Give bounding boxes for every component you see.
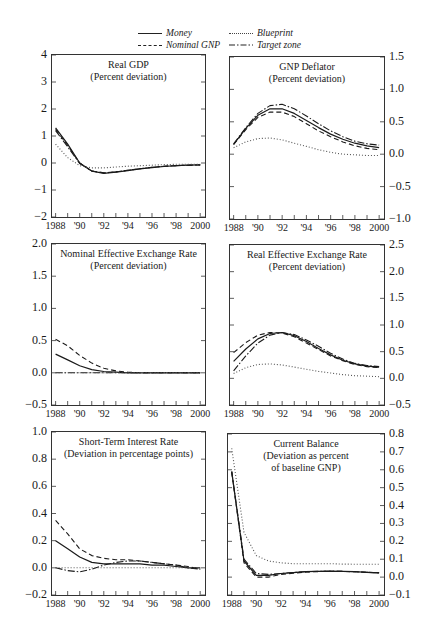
y-tick-label: −0.5 [25,397,47,412]
y-tick-label: −1 [34,182,47,197]
series-money [234,333,380,368]
y-tick-label: 0.7 [389,444,404,459]
x-tick-label: '92 [98,220,110,231]
y-tick-label: 2 [41,101,47,116]
x-tick-label: '96 [324,598,336,609]
series-money [232,472,379,576]
y-tick-label: 0.0 [389,146,404,161]
x-tick-label: '96 [146,220,158,231]
chart-panel-real-effective-exchange-rate: Real Effective Exchange Rate(Percent dev… [229,244,385,406]
plot-area [228,434,384,595]
y-tick-label: −0.1 [389,587,411,602]
x-tick-label: '92 [98,408,110,419]
plot-area [230,57,384,219]
x-tick-label: 2000 [369,222,389,233]
y-tick-label: 1.5 [389,290,404,305]
x-tick-label: '94 [122,220,134,231]
x-tick-label: 1988 [222,598,242,609]
y-tick-label: 0.5 [389,480,404,495]
y-tick-label: 0.5 [389,114,404,129]
x-tick-label: 1988 [224,408,244,419]
x-tick-label: '94 [300,222,312,233]
series-blueprint [56,144,201,168]
chart-panel-nominal-effective-exchange-rate: Nominal Effective Exchange Rate(Percent … [51,243,206,406]
series-money [234,109,380,148]
legend-label: Money [166,28,192,38]
series-nominal-gnp [232,472,379,577]
y-tick-label: 0.8 [389,426,404,441]
x-tick-label: '98 [170,220,182,231]
series-nominal-gnp [234,333,380,368]
legend-label: Target zone [257,40,301,50]
y-tick-label: 1.0 [32,424,47,439]
series-money [56,541,201,568]
y-tick-label: 0.4 [32,506,47,521]
x-tick-label: '92 [98,598,110,609]
y-tick-label: 2.0 [32,236,47,251]
x-tick-label: '94 [299,598,311,609]
series-target-zone [234,104,380,145]
series-nominal-gnp [56,339,201,373]
x-tick-label: 1988 [224,222,244,233]
x-tick-label: '96 [146,598,158,609]
x-tick-label: '96 [146,408,158,419]
x-tick-label: '98 [170,408,182,419]
legend-item-money: Money [138,28,192,38]
plot-area [52,55,205,217]
y-tick-label: −1.0 [389,211,411,226]
chart-panel-gnp-deflator: GNP Deflator(Percent deviation) [229,56,385,220]
y-tick-label: 1 [41,128,47,143]
y-tick-label: −0.2 [25,587,47,602]
x-tick-label: '94 [300,408,312,419]
x-tick-label: 1988 [46,598,66,609]
x-tick-label: '90 [250,598,262,609]
dotted-line-icon [229,33,253,34]
x-tick-label: '98 [349,222,361,233]
y-tick-label: 0.4 [389,498,404,513]
chart-panel-short-term-interest-rate: Short-Term Interest Rate(Deviation in pe… [51,431,206,596]
x-tick-label: 2000 [369,598,389,609]
y-tick-label: 1.0 [32,300,47,315]
x-tick-label: '92 [275,598,287,609]
dashdot-line-icon [229,43,253,47]
y-tick-label: 0.2 [389,533,404,548]
series-target-zone [232,472,379,575]
y-tick-label: 0.3 [389,515,404,530]
legend-label: Nominal GNP [166,40,220,50]
y-tick-label: 0 [41,155,47,170]
legend-item-nominal-gnp: Nominal GNP [138,40,220,50]
plot-area [52,432,205,595]
y-tick-label: 0.0 [389,370,404,385]
x-tick-label: 2000 [369,408,389,419]
y-tick-label: 3 [41,74,47,89]
x-tick-label: '90 [252,408,264,419]
x-tick-label: 2000 [190,598,210,609]
y-tick-label: −0.5 [389,397,411,412]
x-tick-label: '98 [349,408,361,419]
y-tick-label: 0.5 [32,333,47,348]
x-tick-label: 1988 [46,220,66,231]
x-tick-label: '94 [122,598,134,609]
y-tick-label: 0.0 [32,560,47,575]
y-tick-label: 1.5 [389,49,404,64]
x-tick-label: '94 [122,408,134,419]
legend-label: Blueprint [257,28,293,38]
x-tick-label: 1988 [46,408,66,419]
series-blueprint [234,364,380,377]
x-tick-label: '90 [74,408,86,419]
y-tick-label: 0.0 [32,365,47,380]
y-tick-label: 4 [41,47,47,62]
chart-panel-real-gdp: Real GDP(Percent deviation) [51,54,206,218]
chart-panel-current-balance: Current Balance(Deviation as percentof b… [227,433,385,596]
legend-item-target-zone: Target zone [229,40,301,50]
legend: Money Blueprint Nominal GNP Target zone [0,24,434,52]
y-tick-label: −0.5 [389,179,411,194]
x-tick-label: '90 [252,222,264,233]
y-tick-label: 1.0 [389,317,404,332]
y-tick-label: 0.8 [32,451,47,466]
y-tick-label: 1.5 [32,268,47,283]
x-tick-label: '90 [74,220,86,231]
legend-item-blueprint: Blueprint [229,28,293,38]
y-tick-label: 0.2 [32,533,47,548]
x-tick-label: '98 [170,598,182,609]
